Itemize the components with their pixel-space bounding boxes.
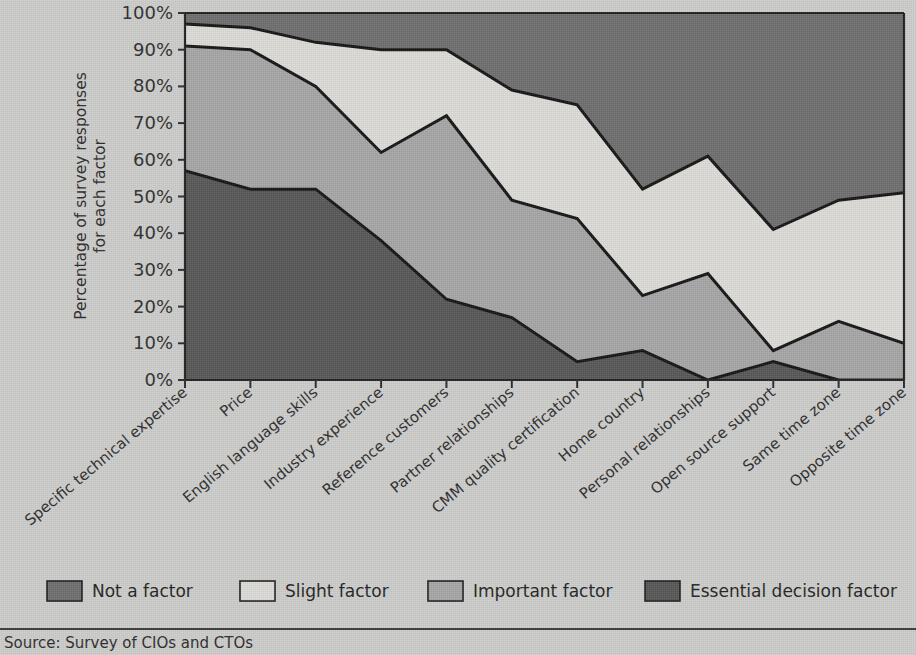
series-bands — [185, 13, 904, 380]
svg-text:Percentage of survey responses: Percentage of survey responses — [72, 72, 90, 320]
x-tick-label: Specific technical expertise — [21, 383, 190, 529]
svg-text:Opposite time zone: Opposite time zone — [786, 383, 910, 491]
legend-swatch — [240, 581, 275, 601]
svg-text:Reference customers: Reference customers — [319, 383, 452, 499]
y-tick-label: 90% — [133, 39, 173, 60]
svg-text:Open source support: Open source support — [647, 383, 779, 498]
x-tick-label: Personal relationships — [576, 383, 714, 503]
footer-divider — [0, 628, 916, 630]
svg-text:Specific technical expertise: Specific technical expertise — [21, 383, 190, 529]
x-tick-label: Reference customers — [319, 383, 452, 499]
legend-swatch — [428, 581, 463, 601]
y-tick-label: 100% — [122, 2, 173, 23]
svg-text:Price: Price — [216, 383, 256, 420]
x-tick-label: Opposite time zone — [786, 383, 910, 491]
chart-figure: 0%10%20%30%40%50%60%70%80%90%100% Specif… — [0, 0, 916, 655]
y-tick-label: 0% — [144, 369, 173, 390]
y-tick-label: 60% — [133, 149, 173, 170]
y-tick-label: 80% — [133, 75, 173, 96]
legend-label: Not a factor — [92, 581, 193, 601]
x-tick-label: Industry experience — [260, 383, 386, 493]
svg-text:Partner relationships: Partner relationships — [387, 383, 518, 497]
chart-legend: Not a factorSlight factorImportant facto… — [47, 581, 897, 601]
y-tick-label: 10% — [133, 332, 173, 353]
y-tick-label: 20% — [133, 296, 173, 317]
legend-label: Essential decision factor — [690, 581, 897, 601]
legend-swatch — [645, 581, 680, 601]
x-axis-labels: Specific technical expertisePriceEnglish… — [21, 383, 909, 529]
y-tick-label: 50% — [133, 186, 173, 207]
x-tick-label: Price — [216, 383, 256, 420]
stacked-area-chart: 0%10%20%30%40%50%60%70%80%90%100% Specif… — [0, 0, 916, 655]
y-tick-label: 40% — [133, 222, 173, 243]
legend-label: Slight factor — [285, 581, 389, 601]
y-tick-label: 70% — [133, 112, 173, 133]
legend-swatch — [47, 581, 82, 601]
svg-text:Personal relationships: Personal relationships — [576, 383, 714, 503]
y-axis-title: Percentage of survey responses for each … — [72, 72, 109, 320]
y-axis-ticks: 0%10%20%30%40%50%60%70%80%90%100% — [122, 2, 185, 390]
legend-label: Important factor — [473, 581, 613, 601]
y-tick-label: 30% — [133, 259, 173, 280]
svg-text:for each factor: for each factor — [91, 138, 109, 253]
x-axis-ticks — [185, 380, 904, 388]
svg-text:Industry experience: Industry experience — [260, 383, 386, 493]
source-note: Source: Survey of CIOs and CTOs — [4, 634, 253, 652]
x-tick-label: Partner relationships — [387, 383, 518, 497]
x-tick-label: Open source support — [647, 383, 779, 498]
